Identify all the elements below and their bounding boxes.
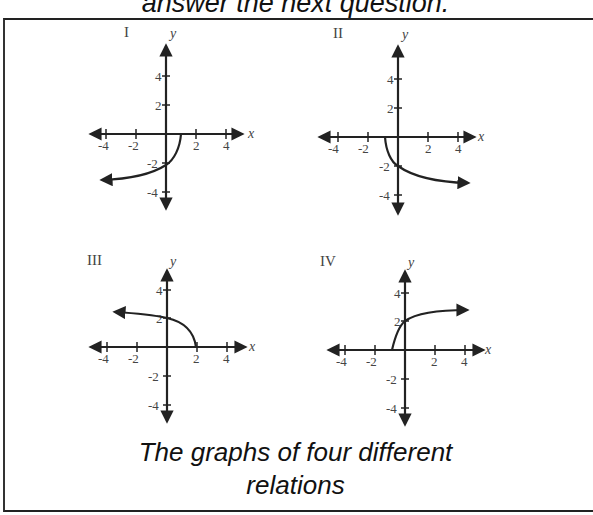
tick-label: -2 <box>358 141 369 156</box>
tick-label: -2 <box>386 372 397 387</box>
y-axis-label: y <box>168 26 177 41</box>
tick-label: 4 <box>387 72 394 87</box>
tick-label: 2 <box>387 101 394 116</box>
relation-curve <box>392 310 467 350</box>
x-axis-label: x <box>477 129 485 144</box>
graph-panel-4: IV y x -4 -2 2 4 4 2 -2 -4 <box>320 253 492 424</box>
tick-label: -4 <box>379 188 390 203</box>
tick-label: 2 <box>193 351 200 366</box>
tick-label: -4 <box>147 185 158 200</box>
x-axis-label: x <box>247 126 255 141</box>
tick-label: 4 <box>155 69 162 84</box>
panel-label: III <box>87 252 102 268</box>
tick-label: 2 <box>156 311 163 326</box>
panel-label: II <box>333 25 343 41</box>
tick-label: 4 <box>394 286 401 301</box>
y-axis-label: y <box>168 254 177 269</box>
graph-panel-2: II y x -4 -2 2 4 4 2 -2 -4 <box>320 25 485 213</box>
tick-label: -4 <box>98 351 109 366</box>
graph-panel-1: I y x -4 -2 2 4 4 2 -2 -4 <box>91 24 255 208</box>
x-axis-label: x <box>248 339 256 354</box>
tick-label: 2 <box>425 141 432 156</box>
figure-caption-line-2: relations <box>0 469 591 501</box>
tick-label: 2 <box>193 138 200 153</box>
x-axis-label: x <box>484 342 492 357</box>
tick-label: -2 <box>128 138 139 153</box>
tick-label: 2 <box>431 354 438 369</box>
tick-label: -4 <box>328 141 339 156</box>
tick-label: -4 <box>98 138 109 153</box>
tick-label: -2 <box>148 369 159 384</box>
tick-label: -4 <box>148 398 159 413</box>
relation-curve <box>102 134 181 180</box>
tick-label: 4 <box>223 351 230 366</box>
tick-label: -2 <box>147 156 158 171</box>
tick-label: -2 <box>128 351 139 366</box>
tick-label: 2 <box>155 98 162 113</box>
panel-label: IV <box>320 253 336 269</box>
tick-label: -2 <box>366 354 377 369</box>
tick-label: 4 <box>223 138 230 153</box>
y-axis-label: y <box>400 27 409 42</box>
tick-label: -4 <box>386 401 397 416</box>
panel-label: I <box>124 24 129 40</box>
tick-label: -2 <box>379 159 390 174</box>
tick-label: -4 <box>336 354 347 369</box>
tick-label: 4 <box>156 283 163 298</box>
y-axis-label: y <box>406 255 415 270</box>
figure-caption-line-1: The graphs of four different <box>0 436 591 468</box>
tick-label: 4 <box>461 354 468 369</box>
tick-label: 4 <box>455 141 462 156</box>
graph-panel-3: III y x -4 -2 2 4 4 2 -2 -4 <box>87 252 256 421</box>
